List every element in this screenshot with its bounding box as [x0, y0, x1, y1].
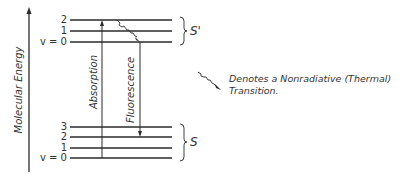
legend-line-1: Denotes a Nonradiative (Thermal) — [229, 73, 391, 85]
fluorescence-arrow — [138, 42, 142, 137]
ground-state-label: S — [190, 136, 198, 148]
legend-wavy-arrow-icon — [198, 72, 221, 90]
ground-state-brace — [180, 124, 187, 161]
energy-axis — [27, 7, 32, 172]
excited-state-levels — [70, 20, 172, 42]
legend-line-2: Transition. — [229, 85, 391, 97]
excited-state-brace — [180, 17, 187, 45]
energy-axis-label: Molecular Energy — [14, 47, 24, 134]
ground-level-label-2: 2 — [61, 132, 67, 142]
excited-level-label-1: 1 — [61, 26, 67, 36]
excited-level-label-2: 2 — [61, 15, 67, 25]
ground-level-label-0: v = 0 — [40, 153, 67, 163]
fluorescence-label: Fluorescence — [126, 57, 136, 123]
excited-level-label-0: v = 0 — [40, 37, 67, 47]
excited-state-label: S' — [190, 25, 201, 37]
absorption-label: Absorption — [89, 55, 99, 109]
energy-level-diagram: Molecular Energy 2 1 v = 0 3 2 1 v = 0 S… — [0, 0, 402, 178]
axis-arrowhead-icon — [27, 7, 32, 14]
legend-text: Denotes a Nonradiative (Thermal) Transit… — [229, 73, 391, 97]
ground-state-levels — [70, 127, 172, 158]
